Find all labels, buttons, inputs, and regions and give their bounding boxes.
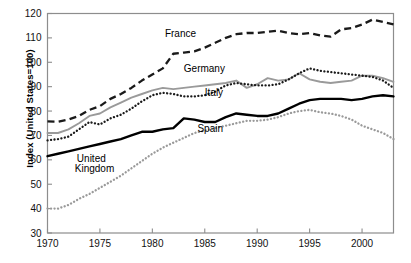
y-tick-label: 100 bbox=[25, 57, 42, 68]
series-annotations: FranceGermanyItalyUnitedKingdomSpain bbox=[75, 28, 225, 174]
x-tick-label: 1990 bbox=[246, 238, 269, 249]
series-label-spain: Spain bbox=[197, 123, 223, 134]
x-tick-label: 1995 bbox=[298, 238, 321, 249]
series-label-italy: Italy bbox=[205, 87, 223, 98]
x-tick-label: 1970 bbox=[36, 238, 59, 249]
series-label-germany: Germany bbox=[184, 63, 225, 74]
chart-figure: Index (United States=100) 30405060708090… bbox=[0, 0, 411, 263]
series-lines bbox=[48, 20, 394, 209]
y-tick-label: 50 bbox=[30, 179, 42, 190]
x-tick-label: 1980 bbox=[141, 238, 164, 249]
x-tick-label: 2000 bbox=[351, 238, 374, 249]
series-label-france: France bbox=[165, 28, 197, 39]
x-axis-ticks: 1970197519801985199019952000 bbox=[36, 229, 373, 250]
plot-area: 30405060708090100110120 1970197519801985… bbox=[0, 0, 411, 263]
y-tick-label: 120 bbox=[25, 8, 42, 19]
y-tick-label: 60 bbox=[30, 154, 42, 165]
y-tick-label: 90 bbox=[30, 81, 42, 92]
series-label-kingdom: Kingdom bbox=[75, 163, 114, 174]
y-tick-label: 40 bbox=[30, 203, 42, 214]
y-tick-label: 30 bbox=[30, 228, 42, 239]
y-tick-label: 110 bbox=[26, 32, 42, 43]
y-tick-label: 70 bbox=[30, 130, 42, 141]
line-chart-svg: 30405060708090100110120 1970197519801985… bbox=[0, 0, 411, 263]
x-tick-label: 1985 bbox=[194, 238, 217, 249]
y-tick-label: 80 bbox=[30, 106, 42, 117]
x-tick-label: 1975 bbox=[89, 238, 112, 249]
